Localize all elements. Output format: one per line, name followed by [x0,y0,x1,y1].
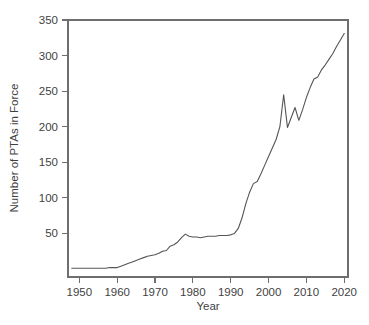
y-tick-label: 250 [39,85,58,97]
y-axis-title: Number of PTAs in Force [8,84,20,213]
x-tick-label: 1990 [218,286,244,298]
x-axis-title: Year [196,300,219,312]
x-axis-tick-labels: 19501960197019801990200020102020 [67,286,357,298]
data-series-line [72,34,344,269]
y-axis-tick-labels: 50100150200250300350 [39,14,58,239]
x-tick-label: 1970 [142,286,168,298]
chart-figure: 50100150200250300350 1950196019701980199… [0,0,369,325]
x-tick-label: 2010 [294,286,320,298]
x-tick-label: 1950 [67,286,93,298]
axis-frame [68,20,348,277]
y-tick-label: 100 [39,192,58,204]
y-tick-label: 300 [39,50,58,62]
x-tick-label: 2020 [331,286,357,298]
chart-plot-area: 50100150200250300350 1950196019701980199… [0,0,369,325]
x-tick-label: 1980 [180,286,206,298]
y-axis-ticks [62,20,68,233]
y-tick-label: 200 [39,121,58,133]
y-tick-label: 50 [45,227,58,239]
y-tick-label: 350 [39,14,58,26]
x-tick-label: 1960 [104,286,130,298]
x-axis-ticks [79,277,344,283]
x-tick-label: 2000 [256,286,282,298]
y-tick-label: 150 [39,156,58,168]
